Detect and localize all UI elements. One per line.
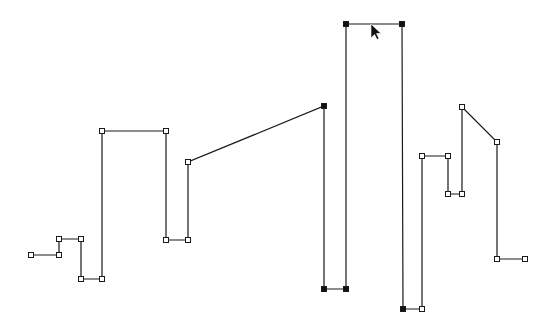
vertex-handle[interactable] bbox=[322, 104, 327, 109]
vertex-handle[interactable] bbox=[322, 287, 327, 292]
vertex-handle[interactable] bbox=[57, 237, 62, 242]
vertex-handle[interactable] bbox=[186, 160, 191, 165]
vertex-handle[interactable] bbox=[446, 154, 451, 159]
vertex-handle[interactable] bbox=[446, 192, 451, 197]
arrow-pointer-icon bbox=[371, 24, 381, 40]
vertex-handle[interactable] bbox=[29, 253, 34, 258]
vertex-handle[interactable] bbox=[164, 238, 169, 243]
vertex-handle[interactable] bbox=[344, 22, 349, 27]
polyline-path[interactable] bbox=[31, 24, 525, 309]
vertex-handle[interactable] bbox=[100, 129, 105, 134]
vertex-handle[interactable] bbox=[523, 257, 528, 262]
vertex-handle[interactable] bbox=[495, 257, 500, 262]
vertex-handle[interactable] bbox=[186, 238, 191, 243]
vertex-handle[interactable] bbox=[460, 192, 465, 197]
vertex-handle[interactable] bbox=[164, 129, 169, 134]
vertex-handles bbox=[29, 22, 528, 312]
vertex-handle[interactable] bbox=[401, 307, 406, 312]
vertex-handle[interactable] bbox=[79, 277, 84, 282]
diagram-canvas[interactable] bbox=[0, 0, 555, 328]
vertex-handle[interactable] bbox=[100, 277, 105, 282]
vertex-handle[interactable] bbox=[57, 253, 62, 258]
vertex-handle[interactable] bbox=[79, 237, 84, 242]
vertex-handle[interactable] bbox=[344, 287, 349, 292]
vertex-handle[interactable] bbox=[400, 22, 405, 27]
vertex-handle[interactable] bbox=[460, 105, 465, 110]
vertex-handle[interactable] bbox=[495, 140, 500, 145]
vertex-handle[interactable] bbox=[420, 154, 425, 159]
vertex-handle[interactable] bbox=[420, 307, 425, 312]
